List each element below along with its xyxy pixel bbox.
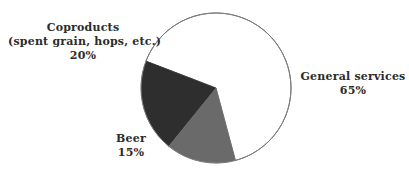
- pie-label-coproducts-name: Coproducts: [8, 21, 158, 35]
- pie-chart-figure: Coproducts (spent grain, hops, etc.) 20%…: [0, 0, 409, 178]
- pie-label-coproducts-detail: (spent grain, hops, etc.): [8, 35, 158, 49]
- pie-label-general-services-value: 65%: [299, 84, 407, 98]
- pie-label-beer-value: 15%: [100, 146, 162, 160]
- pie-label-coproducts-value: 20%: [8, 49, 158, 63]
- pie-label-beer-name: Beer: [100, 132, 162, 146]
- pie-label-coproducts: Coproducts (spent grain, hops, etc.) 20%: [8, 21, 158, 63]
- pie-label-general-services-name: General services: [299, 70, 407, 84]
- pie-label-beer: Beer 15%: [100, 132, 162, 160]
- pie-label-general-services: General services 65%: [299, 70, 407, 98]
